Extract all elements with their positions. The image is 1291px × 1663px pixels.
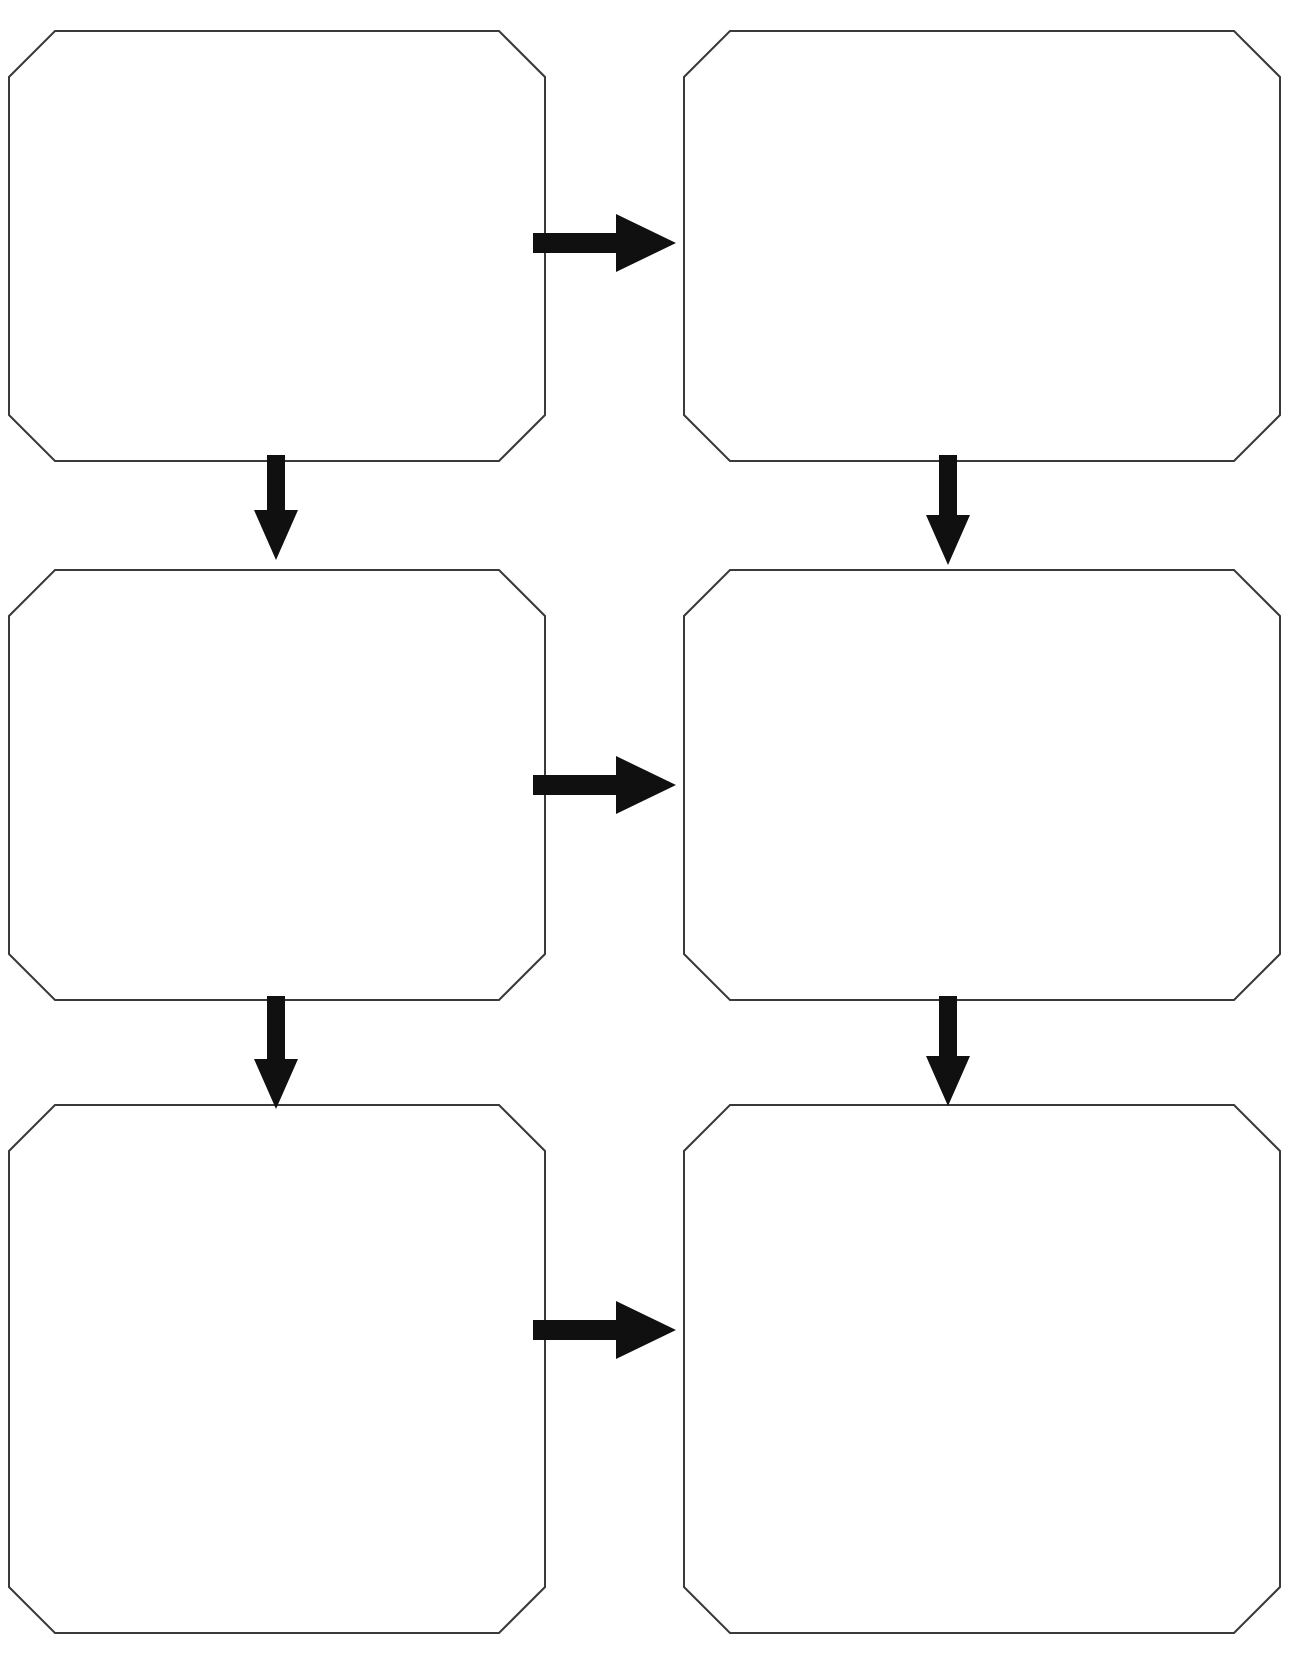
flowchart-page: Blank Flowchart Graphic Organizer — [0, 0, 1291, 1663]
box-1-outline[interactable] — [9, 31, 545, 461]
box-4-outline[interactable] — [684, 570, 1280, 1000]
arrow-down-icon-1 — [254, 455, 298, 560]
box-2-outline[interactable] — [684, 31, 1280, 461]
box-6-outline[interactable] — [684, 1105, 1280, 1633]
arrow-down-icon-4 — [926, 996, 970, 1106]
box-5[interactable] — [9, 1105, 545, 1633]
box-2[interactable] — [684, 31, 1280, 461]
box-3[interactable] — [9, 570, 545, 1000]
box-6[interactable] — [684, 1105, 1280, 1633]
box-3-outline[interactable] — [9, 570, 545, 1000]
box-5-outline[interactable] — [9, 1105, 545, 1633]
box-4[interactable] — [684, 570, 1280, 1000]
box-1[interactable] — [9, 31, 545, 461]
arrow-right-icon-2 — [533, 756, 676, 814]
arrow-down-icon-2 — [926, 455, 970, 565]
arrow-right-icon-3 — [533, 1301, 676, 1359]
arrow-down-icon-3 — [254, 996, 298, 1109]
arrow-right-icon-1 — [533, 214, 676, 272]
flowchart-diagram — [0, 0, 1291, 1663]
